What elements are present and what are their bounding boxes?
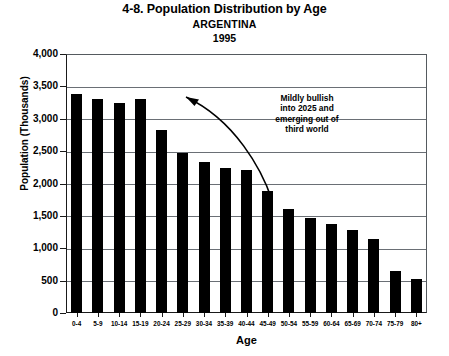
- y-axis-tick-label: 4,000: [33, 49, 58, 59]
- y-axis-tick: [60, 119, 66, 120]
- x-axis-tick: [77, 313, 78, 317]
- bar: [156, 130, 167, 313]
- x-axis-tick: [225, 313, 226, 317]
- y-axis-tick-label: 500: [41, 276, 58, 286]
- bar: [135, 99, 146, 313]
- x-axis-tick: [183, 313, 184, 317]
- bar: [199, 162, 210, 313]
- y-axis-tick: [60, 184, 66, 185]
- chart-subtitle-country: ARGENTINA: [0, 17, 449, 31]
- x-axis-tick: [247, 313, 248, 317]
- bar: [326, 224, 337, 313]
- y-axis-tick-label: 1,000: [33, 243, 58, 253]
- chart-title-block: 4-8. Population Distribution by Age ARGE…: [0, 2, 449, 45]
- bars-layer: [66, 54, 427, 313]
- x-axis-tick: [374, 313, 375, 317]
- chart-title: 4-8. Population Distribution by Age: [0, 2, 449, 17]
- x-axis-tick: [289, 313, 290, 317]
- x-axis-tick: [310, 313, 311, 317]
- x-axis-tick: [331, 313, 332, 317]
- y-axis-tick-label: 0: [52, 308, 58, 318]
- x-axis-tick: [119, 313, 120, 317]
- bar: [71, 94, 82, 314]
- annotation-line: Mildly bullish: [249, 93, 365, 103]
- bar: [283, 209, 294, 313]
- y-axis-tick-label: 1,500: [33, 211, 58, 221]
- y-axis-tick-label: 3,000: [33, 114, 58, 124]
- y-axis-tick: [60, 86, 66, 87]
- bar: [411, 279, 422, 313]
- bar: [92, 99, 103, 313]
- x-axis-tick-label: 80+: [402, 320, 430, 328]
- annotation-line: into 2025 and: [249, 103, 365, 113]
- bar: [262, 191, 273, 313]
- x-axis-title: Age: [66, 334, 427, 346]
- annotation-line: third world: [249, 124, 365, 134]
- x-axis-tick: [268, 313, 269, 317]
- bar: [390, 271, 401, 313]
- bar: [241, 170, 252, 313]
- x-axis-tick: [162, 313, 163, 317]
- population-distribution-chart: 4-8. Population Distribution by Age ARGE…: [0, 0, 449, 356]
- x-axis-tick: [98, 313, 99, 317]
- bar: [368, 239, 379, 313]
- y-axis-tick: [60, 248, 66, 249]
- y-axis-tick-label: 3,500: [33, 81, 58, 91]
- bar: [347, 230, 358, 313]
- y-axis-tick: [60, 216, 66, 217]
- x-axis-tick: [353, 313, 354, 317]
- x-axis-tick: [416, 313, 417, 317]
- bar: [177, 153, 188, 313]
- annotation-line: emerging out of: [249, 114, 365, 124]
- y-axis-tick: [60, 313, 66, 314]
- y-axis-tick-label: 2,000: [33, 179, 58, 189]
- chart-year: 1995: [0, 31, 449, 45]
- y-axis-tick: [60, 151, 66, 152]
- bar: [305, 218, 316, 313]
- bar: [220, 168, 231, 313]
- y-axis-tick: [60, 54, 66, 55]
- x-axis-tick: [395, 313, 396, 317]
- bar: [114, 103, 125, 313]
- y-axis-title: Population (Thousands): [19, 54, 30, 214]
- x-axis-tick: [204, 313, 205, 317]
- y-axis-tick: [60, 281, 66, 282]
- annotation-text: Mildly bullishinto 2025 andemerging out …: [249, 93, 365, 135]
- y-axis-tick-label: 2,500: [33, 146, 58, 156]
- x-axis-tick: [140, 313, 141, 317]
